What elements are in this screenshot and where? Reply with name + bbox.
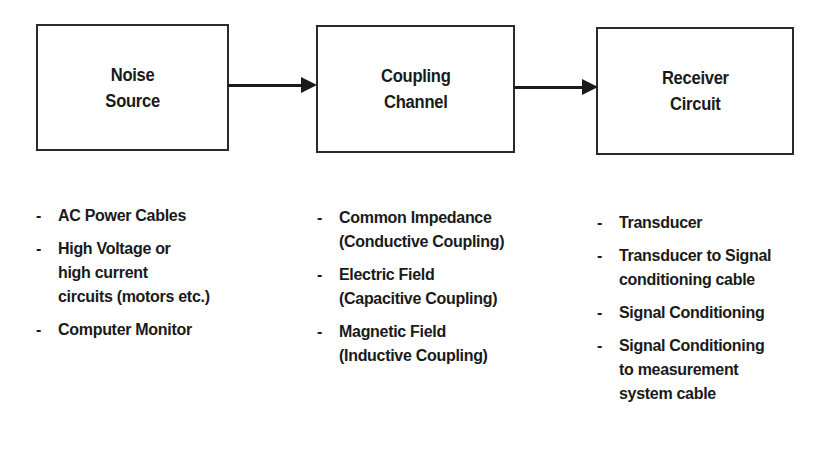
bullet-dash: - <box>597 301 602 325</box>
list-item: - Electric Field (Capacitive Coupling) <box>317 263 504 311</box>
receiver-circuit-block: Receiver Circuit <box>596 27 794 155</box>
bullet-dash: - <box>317 206 322 230</box>
list-item: - Transducer <box>597 211 771 235</box>
noise-source-block: Noise Source <box>36 24 229 151</box>
list-item: - Computer Monitor <box>36 318 210 342</box>
arrow-head-icon <box>301 77 317 93</box>
arrow-head-icon <box>582 79 598 95</box>
coupling-channel-block: Coupling Channel <box>316 25 515 153</box>
list-item: - Signal Conditioning to measurement sys… <box>597 334 771 406</box>
bullet-dash: - <box>597 334 602 358</box>
arrow-line <box>228 84 302 87</box>
noise-source-title: Noise Source <box>105 62 159 114</box>
bullet-dash: - <box>36 318 41 342</box>
arrow-line <box>514 86 584 89</box>
noise-source-examples: - AC Power Cables - High Voltage or high… <box>36 204 210 351</box>
coupling-channel-title: Coupling Channel <box>381 63 451 115</box>
list-item: - Transducer to Signal conditioning cabl… <box>597 244 771 292</box>
bullet-dash: - <box>36 237 41 261</box>
bullet-dash: - <box>317 320 322 344</box>
list-item: - Magnetic Field (Inductive Coupling) <box>317 320 504 368</box>
coupling-channel-examples: - Common Impedance (Conductive Coupling)… <box>317 206 504 377</box>
bullet-dash: - <box>597 211 602 235</box>
list-item: - High Voltage or high current circuits … <box>36 237 210 309</box>
bullet-dash: - <box>36 204 41 228</box>
receiver-circuit-examples: - Transducer - Transducer to Signal cond… <box>597 211 771 415</box>
receiver-circuit-title: Receiver Circuit <box>662 65 729 117</box>
list-item: - Common Impedance (Conductive Coupling) <box>317 206 504 254</box>
list-item: - Signal Conditioning <box>597 301 771 325</box>
bullet-dash: - <box>597 244 602 268</box>
bullet-dash: - <box>317 263 322 287</box>
list-item: - AC Power Cables <box>36 204 210 228</box>
